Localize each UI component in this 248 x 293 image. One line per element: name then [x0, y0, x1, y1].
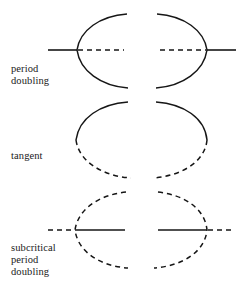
- period-doubling-left-arc: [77, 14, 128, 88]
- label-subcritical-period-doubling: subcritical period doubling: [11, 242, 56, 279]
- tangent-right-lower-arc: [153, 140, 207, 178]
- period-doubling-right-arc: [156, 14, 207, 88]
- panel-period-doubling: [48, 14, 236, 88]
- label-tangent: tangent: [11, 150, 43, 162]
- tangent-left-upper-arc: [76, 102, 128, 140]
- tangent-right-upper-arc: [156, 102, 207, 140]
- panel-subcritical-period-doubling: [48, 192, 234, 268]
- label-period-doubling: period doubling: [11, 63, 49, 87]
- tangent-left-lower-arc: [76, 140, 131, 178]
- panel-tangent: [76, 102, 207, 178]
